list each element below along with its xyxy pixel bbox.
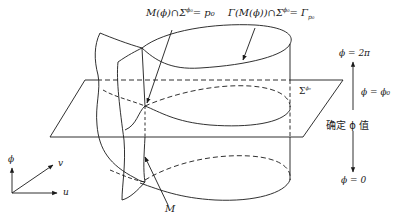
diagram-figure: M(ϕ)∩Σϕ₀= p₀ Γ(M(ϕ))∩Σϕ₀= Γp₀ Σϕ₀ M ϕ = … [0,0,393,219]
label-p0: M(ϕ)∩Σϕ₀= p₀ [146,7,215,18]
v-axis-arrow [12,165,53,193]
coordinate-axes [12,165,57,193]
axis-label-u: u [63,188,69,197]
surface-m [95,33,145,200]
label-phi-phi0: ϕ = ϕ₀ [361,88,390,97]
label-phi-0: ϕ = 0 [341,176,366,185]
label-plane-sigma: Σϕ₀ [299,86,311,96]
axis-label-phi: ϕ [8,155,14,164]
label-phi-2pi: ϕ = 2π [339,49,370,58]
label-gamma: Γ(M(ϕ))∩Σϕ₀= Γp₀ [228,7,314,20]
label-surface-m: M [165,204,175,214]
axis-label-v: v [58,159,63,168]
label-fix-phi: 确定 ϕ 值 [325,121,370,131]
diagram-canvas [0,0,393,219]
pointer-m-arrow [145,157,168,205]
pointer-gamma-arrow [243,28,255,60]
pointer-p0-arrow [147,30,172,103]
cylinder-gamma [140,25,291,201]
